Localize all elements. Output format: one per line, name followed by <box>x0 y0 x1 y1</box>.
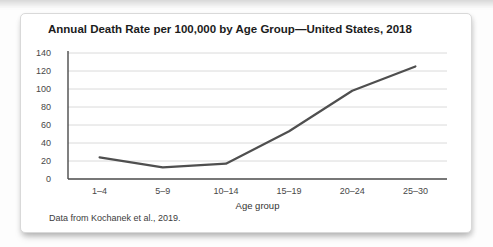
figure-title: Annual Death Rate per 100,000 by Age Gro… <box>48 23 412 35</box>
figure-footnote: Data from Kochanek et al., 2019. <box>49 213 181 223</box>
data-line <box>100 67 416 168</box>
x-tick-label: 10–14 <box>213 186 238 196</box>
y-tick-label: 100 <box>36 84 51 94</box>
x-axis-title: Age group <box>236 200 280 211</box>
figure-card: Annual Death Rate per 100,000 by Age Gro… <box>20 13 472 233</box>
y-tick-label: 0 <box>46 174 51 184</box>
x-tick-label: 5–9 <box>155 186 170 196</box>
x-tick-label: 20–24 <box>340 186 365 196</box>
line-chart: 0204060801001201401–45–910–1415–1920–242… <box>21 42 473 218</box>
y-tick-label: 60 <box>41 120 51 130</box>
x-tick-label: 1–4 <box>92 186 107 196</box>
x-tick-label: 25–30 <box>403 186 428 196</box>
y-tick-label: 20 <box>41 156 51 166</box>
page-edge-top <box>0 0 493 8</box>
y-tick-label: 40 <box>41 138 51 148</box>
x-tick-label: 15–19 <box>277 186 302 196</box>
y-tick-label: 80 <box>41 102 51 112</box>
y-tick-label: 120 <box>36 66 51 76</box>
y-tick-label: 140 <box>36 48 51 58</box>
